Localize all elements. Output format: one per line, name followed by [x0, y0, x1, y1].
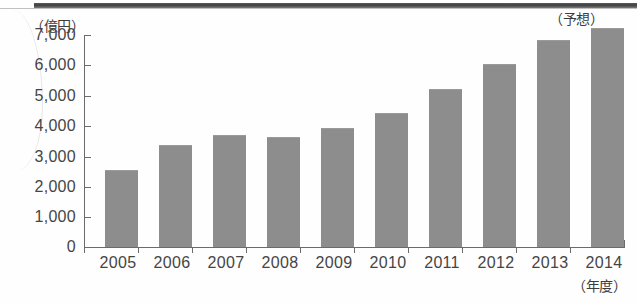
x-tick-mark	[138, 247, 139, 253]
y-tick-label: 2,000	[8, 178, 76, 196]
x-axis-unit-label: （年度）	[572, 275, 626, 295]
bar-chart-figure: （億円） （予想） 7,000 6,000 5,000 4,000 3,000 …	[0, 0, 637, 303]
y-tick-label: 1,000	[8, 208, 76, 226]
bar	[537, 40, 570, 247]
x-tick-mark	[192, 247, 193, 253]
x-tick-mark	[300, 247, 301, 253]
bar	[159, 145, 192, 247]
bar	[321, 128, 354, 247]
x-tick-mark	[570, 247, 571, 253]
x-tick-label: 2014	[570, 254, 637, 272]
y-tick-label: 4,000	[8, 117, 76, 135]
y-tick-label: 5,000	[8, 87, 76, 105]
x-tick-mark	[84, 247, 85, 253]
y-tick-label: 7,000	[8, 26, 76, 44]
y-tick-label: 3,000	[8, 148, 76, 166]
x-tick-mark	[408, 247, 409, 253]
y-tick-label-zero: 0	[8, 238, 76, 256]
x-tick-mark	[516, 247, 517, 253]
bar	[375, 113, 408, 247]
bar	[267, 137, 300, 247]
bar	[213, 135, 246, 247]
bar	[429, 89, 462, 247]
bar	[591, 28, 624, 247]
forecast-annotation: （予想）	[549, 8, 603, 28]
x-tick-mark	[462, 247, 463, 253]
x-tick-mark	[354, 247, 355, 253]
plot-area	[84, 35, 625, 247]
page-top-rule-hairline	[0, 8, 637, 9]
x-tick-mark	[246, 247, 247, 253]
bar	[105, 170, 138, 247]
bar	[483, 64, 516, 247]
y-tick-label: 6,000	[8, 56, 76, 74]
